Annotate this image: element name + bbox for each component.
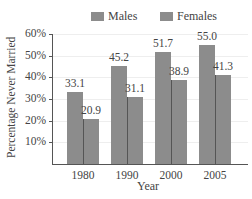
legend: Males Females bbox=[0, 9, 252, 23]
bar-value-label: 45.2 bbox=[104, 51, 134, 63]
y-tick-label: 40% bbox=[6, 70, 46, 82]
bar-value-label: 33.1 bbox=[60, 77, 90, 89]
bar-value-label: 31.1 bbox=[120, 82, 150, 94]
legend-swatch-males bbox=[91, 12, 104, 21]
y-tick bbox=[49, 99, 53, 100]
bar-females-2000 bbox=[171, 80, 187, 164]
legend-item-males: Males bbox=[91, 9, 137, 23]
legend-label-males: Males bbox=[108, 9, 137, 24]
bar-females-1990 bbox=[127, 97, 143, 164]
y-tick-label: 30% bbox=[6, 92, 46, 104]
bar-females-1980 bbox=[83, 119, 99, 164]
legend-item-females: Females bbox=[160, 9, 217, 23]
y-tick bbox=[49, 56, 53, 57]
x-tick-label: 1980 bbox=[63, 169, 103, 181]
y-tick-label: 60% bbox=[6, 27, 46, 39]
bar-value-label: 41.3 bbox=[208, 60, 238, 72]
x-tick-label: 2005 bbox=[195, 169, 235, 181]
bar-value-label: 38.9 bbox=[164, 65, 194, 77]
x-axis-line bbox=[52, 164, 248, 165]
x-axis-label: Year bbox=[128, 179, 168, 194]
bar-value-label: 55.0 bbox=[192, 30, 222, 42]
plot-area: 10%20%30%40%50%60%33.120.9198045.231.119… bbox=[52, 34, 248, 164]
bar-value-label: 51.7 bbox=[148, 37, 178, 49]
y-tick-label: 20% bbox=[6, 114, 46, 126]
bar-females-2005 bbox=[215, 75, 231, 164]
y-tick bbox=[49, 142, 53, 143]
y-tick-label: 50% bbox=[6, 49, 46, 61]
legend-swatch-females bbox=[160, 12, 173, 21]
y-tick-label: 10% bbox=[6, 135, 46, 147]
gridline bbox=[52, 56, 248, 57]
y-tick bbox=[49, 77, 53, 78]
y-tick bbox=[49, 121, 53, 122]
bar-value-label: 20.9 bbox=[76, 104, 106, 116]
legend-label-females: Females bbox=[177, 9, 217, 24]
y-tick bbox=[49, 34, 53, 35]
